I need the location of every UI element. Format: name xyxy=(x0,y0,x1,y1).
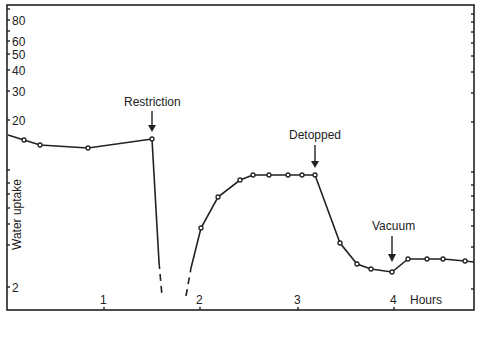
series-drop-dashed xyxy=(159,262,162,296)
x-tick-2: 2 xyxy=(196,293,203,307)
x-tick-4: 4 xyxy=(390,293,397,307)
y-tick-50: 50 xyxy=(12,48,26,62)
series-before-restriction xyxy=(8,135,152,148)
x-axis-label: Hours xyxy=(410,293,442,307)
x-tick-3: 3 xyxy=(294,293,301,307)
y-axis-label: Water uptake xyxy=(10,179,24,250)
series-after-recovery xyxy=(191,175,474,272)
water-uptake-chart: 80 60 50 40 30 20 2 Water uptake 1 2 3 4… xyxy=(0,0,480,343)
y-tick-30: 30 xyxy=(12,85,26,99)
y-tick-2: 2 xyxy=(12,281,19,295)
arrow-down-icon xyxy=(148,111,156,132)
data-markers xyxy=(22,137,467,274)
series-drop-solid xyxy=(152,139,159,262)
annotation-vacuum: Vacuum xyxy=(372,219,415,233)
y-tick-20: 20 xyxy=(12,114,26,128)
annotation-detopped: Detopped xyxy=(289,128,341,142)
x-tick-1: 1 xyxy=(100,293,107,307)
series-rise-dashed xyxy=(186,268,191,296)
y-tick-40: 40 xyxy=(12,64,26,78)
plot-frame xyxy=(7,5,474,310)
y-tick-60: 60 xyxy=(12,35,26,49)
annotation-restriction: Restriction xyxy=(124,95,181,109)
data-series xyxy=(8,135,474,296)
arrow-down-icon xyxy=(311,145,319,168)
y-tick-80: 80 xyxy=(12,14,26,28)
arrow-down-icon xyxy=(388,236,396,262)
